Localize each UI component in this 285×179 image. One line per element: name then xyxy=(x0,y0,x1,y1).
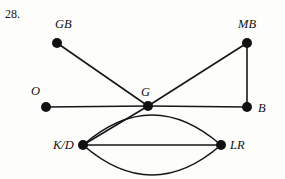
graph-node xyxy=(242,38,252,48)
graph-node xyxy=(52,38,62,48)
graph-node-label: B xyxy=(258,102,266,115)
graph-edge xyxy=(148,43,247,106)
graph-node-label: MB xyxy=(238,18,256,31)
graph-edge xyxy=(83,106,148,145)
exercise-number: 28. xyxy=(5,7,20,22)
graph-edge xyxy=(83,115,221,145)
graph-node-label: K/D xyxy=(53,139,74,152)
graph-node xyxy=(41,102,51,112)
graph-edge xyxy=(57,43,148,106)
graph-node xyxy=(143,101,153,111)
graph-node xyxy=(216,140,226,150)
graph-node-label: G xyxy=(141,86,150,99)
graph-node-label: GB xyxy=(55,18,72,31)
figure-canvas: 28. GBMBOGBK/DLR xyxy=(0,0,285,179)
graph-node-label: O xyxy=(31,85,40,98)
graph-edge xyxy=(83,145,221,175)
graph-node-label: LR xyxy=(230,139,245,152)
graph-edge xyxy=(46,106,148,107)
graph-node xyxy=(242,102,252,112)
graph-edge xyxy=(148,106,247,107)
graph-node xyxy=(78,140,88,150)
